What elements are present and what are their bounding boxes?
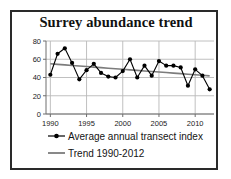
x-tick-label: 1995 (78, 119, 95, 128)
data-point-marker (179, 65, 183, 69)
transect-index-series (50, 48, 209, 89)
chart-legend: Average annual transect indexTrend 1990-… (48, 131, 203, 159)
y-tick-label: 0 (37, 110, 41, 119)
data-point-marker (92, 62, 96, 66)
x-tick-label: 2000 (114, 119, 131, 128)
data-point-marker (164, 64, 168, 68)
data-point-marker (77, 77, 81, 81)
data-point-marker (186, 84, 190, 88)
y-tick-label: 40 (33, 73, 41, 82)
y-tick-label: 60 (33, 55, 41, 64)
data-point-marker (200, 74, 204, 78)
x-tick-label: 1990 (42, 119, 59, 128)
data-point-marker (171, 64, 175, 68)
trend-line-series (50, 64, 209, 76)
data-point-marker (48, 73, 52, 77)
gridlines-group (46, 41, 214, 114)
y-tick-label: 80 (33, 37, 41, 46)
legend-item-label: Trend 1990-2012 (68, 148, 145, 159)
data-point-marker (135, 75, 139, 79)
x-tick-label: 2005 (151, 119, 168, 128)
data-point-marker (55, 52, 59, 56)
data-point-marker (142, 64, 146, 68)
chart-plot: 020406080 19901995200020052010 Average a… (12, 12, 216, 168)
data-point-marker (157, 59, 161, 63)
data-point-marker (99, 71, 103, 75)
data-point-marker (70, 61, 74, 65)
data-point-marker (208, 87, 212, 91)
data-point-marker (63, 46, 67, 50)
data-point-marker (150, 74, 154, 78)
legend-item-label: Average annual transect index (68, 131, 203, 142)
x-tick-label: 2010 (187, 119, 204, 128)
data-point-marker (121, 69, 125, 73)
figure-frame: Surrey abundance trend 020406080 1990199… (10, 10, 218, 170)
data-point-marker (106, 74, 110, 78)
x-axis-tick-labels: 19901995200020052010 (42, 119, 204, 128)
data-point-marker (128, 57, 132, 61)
y-tick-label: 20 (33, 92, 41, 101)
data-point-marker (113, 75, 117, 79)
y-axis-tick-labels: 020406080 (33, 37, 41, 119)
data-point-marker (193, 67, 197, 71)
transect-index-markers (48, 46, 212, 91)
data-point-marker (84, 68, 88, 72)
